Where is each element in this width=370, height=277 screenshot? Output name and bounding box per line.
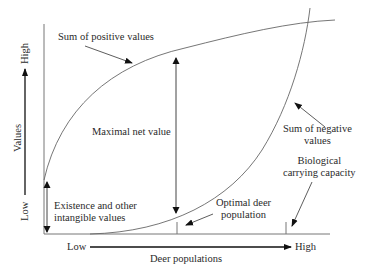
optimal-population-label: Optimal deer population <box>216 197 271 221</box>
y-axis-high-label: High <box>19 43 30 64</box>
existence-values-line1: Existence and other <box>54 200 137 212</box>
sum-negative-line2: values <box>283 135 352 147</box>
sum-positive-label: Sum of positive values <box>58 31 154 43</box>
maximal-net-value-label: Maximal net value <box>92 126 171 138</box>
sum-negative-label: Sum of negative values <box>283 123 352 147</box>
carrying-capacity-line2: carrying capacity <box>283 167 356 179</box>
existence-values-label: Existence and other intangible values <box>54 200 137 224</box>
existence-values-line2: intangible values <box>54 212 137 224</box>
capacity-pointer-arrow <box>292 182 312 226</box>
x-axis-high-label: High <box>295 241 316 253</box>
carrying-capacity-line1: Biological <box>283 155 356 167</box>
optimal-pointer-arrow <box>186 214 213 225</box>
y-axis-low-label: Low <box>19 202 30 221</box>
optimal-population-line2: population <box>216 209 271 221</box>
optimal-population-line1: Optimal deer <box>216 197 271 209</box>
positive-pointer-arrow <box>85 46 132 63</box>
carrying-capacity-label: Biological carrying capacity <box>283 155 356 179</box>
x-axis-title: Deer populations <box>150 253 222 265</box>
x-axis-low-label: Low <box>67 241 86 253</box>
y-axis-title: Values <box>12 124 23 152</box>
sum-negative-line1: Sum of negative <box>283 123 352 135</box>
